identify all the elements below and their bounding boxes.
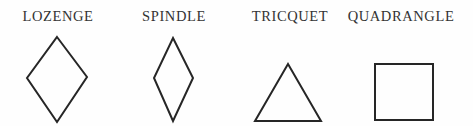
label-lozenge: LOZENGE xyxy=(22,8,93,24)
label-spindle: SPINDLE xyxy=(142,8,206,24)
labeled-shapes-figure: LOZENGE SPINDLE TRICQUET QUADRANGLE xyxy=(0,0,473,126)
tricquet-triangle-shape xyxy=(255,64,321,121)
quadrangle-square-shape xyxy=(375,64,433,120)
label-quadrangle: QUADRANGLE xyxy=(348,8,455,24)
lozenge-shape xyxy=(27,37,87,122)
spindle-shape xyxy=(154,38,193,121)
label-tricquet: TRICQUET xyxy=(252,8,329,24)
